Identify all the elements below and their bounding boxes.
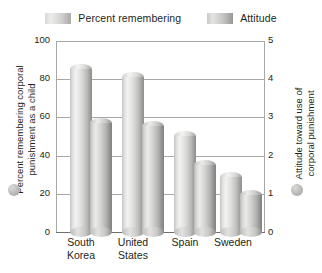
- y2-axis-tick-5: 5: [268, 34, 298, 45]
- bar-body: [122, 77, 144, 232]
- x-axis-label-line1: Sweden: [202, 236, 264, 249]
- bar-body: [90, 123, 112, 232]
- x-axis-label-line2: States: [102, 249, 164, 262]
- bar-body: [174, 136, 196, 232]
- bar-percent-united-states: [122, 72, 144, 232]
- bar-attitude-spain: [194, 160, 216, 232]
- y-axis-title-left-line2: punishment as a child: [25, 45, 37, 215]
- bar-attitude-sweden: [240, 190, 262, 232]
- bar-body: [142, 126, 164, 232]
- bar-body: [220, 177, 242, 232]
- bar-attitude-south-korea: [90, 118, 112, 232]
- y-axis-tick-100: 100: [10, 34, 50, 45]
- chart-legend: Percent remembering Attitude: [0, 8, 322, 28]
- y-axis-tick-0: 0: [10, 226, 50, 237]
- bar-percent-south-korea: [70, 64, 92, 232]
- gridline-100: [56, 41, 265, 42]
- bullet-dot-icon-left: [8, 184, 20, 196]
- x-axis-label-sweden: Sweden: [202, 236, 264, 249]
- legend-item-percent-remembering: Percent remembering: [45, 12, 181, 24]
- legend-item-attitude: Attitude: [207, 12, 276, 24]
- bar-percent-sweden: [220, 172, 242, 232]
- y-axis-line-right: [264, 41, 265, 232]
- legend-swatch-attitude: [207, 13, 233, 24]
- legend-label-attitude: Attitude: [240, 12, 276, 24]
- chart-plot-area: [56, 41, 265, 232]
- x-axis-categories: South Korea United States Spain Sweden: [56, 236, 265, 272]
- y2-axis-tick-0: 0: [268, 226, 298, 237]
- bar-attitude-united-states: [142, 121, 164, 232]
- y-axis-line-left: [56, 41, 57, 232]
- legend-label-percent-remembering: Percent remembering: [78, 12, 181, 24]
- bar-body: [194, 165, 216, 232]
- bar-percent-spain: [174, 131, 196, 232]
- y-axis-title-right-line2: corporal punishment: [304, 54, 316, 214]
- bullet-dot-icon-right: [291, 184, 303, 196]
- bar-body: [70, 69, 92, 232]
- legend-swatch-percent-remembering: [45, 13, 71, 24]
